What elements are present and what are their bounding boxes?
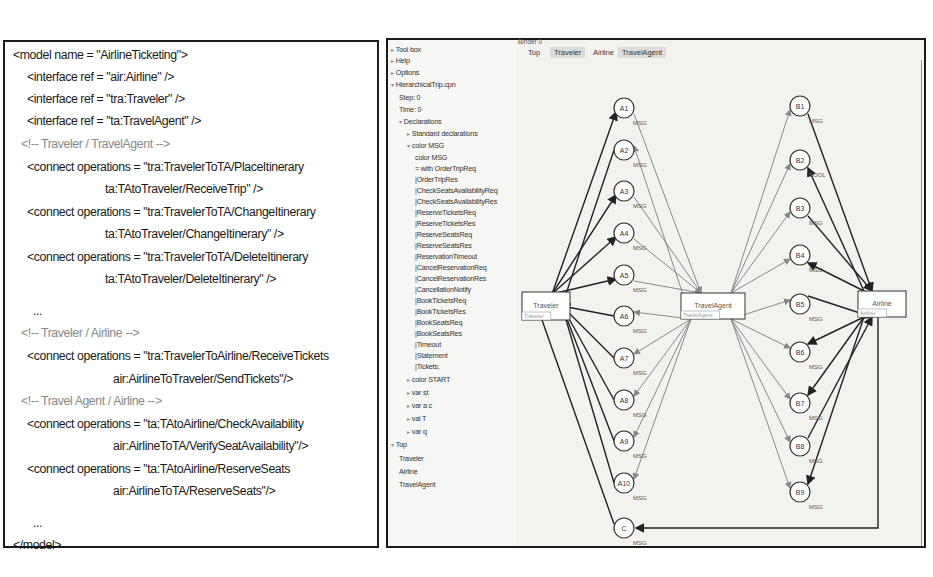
transition-traveler[interactable]: TravelerTraveler [522, 292, 570, 320]
index-item-label: |ReserveTicketsReq [415, 208, 476, 217]
index-item[interactable]: |Timeout [415, 340, 441, 349]
index-item[interactable]: |CheckSeatsAvailabilityReq [415, 186, 497, 195]
index-item[interactable]: |CancellationNotify [415, 285, 471, 294]
index-item[interactable]: ▸Options [391, 68, 419, 77]
collapsed-triangle-icon[interactable]: ▸ [407, 429, 410, 435]
expanded-triangle-icon[interactable]: ▾ [391, 82, 394, 88]
expanded-triangle-icon[interactable]: ▾ [391, 442, 394, 448]
place-b2[interactable]: B2BOOL [790, 150, 826, 178]
index-item[interactable]: |ReserveTicketsReq [415, 208, 476, 217]
svg-text:B1: B1 [796, 103, 805, 110]
transition-airline[interactable]: AirlineAirline [858, 291, 906, 317]
place-a1[interactable]: A1MSG [614, 98, 647, 126]
index-item[interactable]: ▾color MSG [407, 141, 444, 150]
index-item[interactable]: |Statement [415, 351, 448, 360]
collapsed-triangle-icon[interactable]: ▸ [391, 47, 394, 53]
index-item-label: Help [396, 56, 410, 65]
index-item[interactable]: |ReservationTimeout [415, 252, 477, 261]
tab-top[interactable]: Top [524, 47, 544, 58]
index-item[interactable]: |BookTicketsReq [415, 296, 466, 305]
tab-airline[interactable]: Airline [589, 47, 618, 58]
place-a9[interactable]: A9MSG [614, 431, 647, 459]
index-item[interactable]: ▸Help [391, 56, 410, 65]
index-item[interactable]: ▸var st [407, 388, 428, 397]
index-item[interactable]: ▾Declarations [399, 117, 441, 126]
index-item[interactable]: ▾Top [391, 440, 407, 449]
place-b7[interactable]: B7MSG [790, 393, 823, 421]
index-item[interactable]: |Tickets; [415, 362, 440, 371]
index-item-label: |ReserveSeatsReq [415, 230, 472, 239]
svg-text:B9: B9 [796, 489, 805, 496]
index-item[interactable]: ▸color START [407, 375, 450, 384]
svg-text:MSG: MSG [633, 370, 647, 376]
index-item[interactable]: ▸var q [407, 427, 427, 436]
index-item[interactable]: = with OrderTripReq [415, 164, 476, 173]
index-item-label: |ReservationTimeout [415, 252, 477, 261]
index-item[interactable]: |CancelReservationReq [415, 263, 487, 272]
index-item-label: |BookTicketsReq [415, 296, 466, 305]
index-item[interactable]: ▸val T [407, 414, 426, 423]
index-item[interactable]: ▸var a c [407, 401, 432, 410]
index-item[interactable]: ▸Tool box [391, 45, 421, 54]
index-item[interactable]: |BookSeatsRes [415, 329, 462, 338]
collapsed-triangle-icon[interactable]: ▸ [407, 390, 410, 396]
svg-text:BOOL: BOOL [809, 172, 826, 178]
xml-code-line: <connect operations = "ta:TAtoAirline/Re… [27, 462, 290, 476]
expanded-triangle-icon[interactable]: ▾ [399, 119, 402, 125]
place-a5[interactable]: A5MSG [614, 265, 647, 293]
place-a4[interactable]: A4MSG [614, 223, 647, 251]
index-item[interactable]: Step: 0 [399, 93, 420, 102]
index-item[interactable]: |BookTicketsRes [415, 307, 466, 316]
index-item[interactable]: Airline [399, 467, 418, 476]
index-item[interactable]: Time: 0 [399, 105, 421, 114]
index-item[interactable]: ▸Standard declarations [407, 129, 478, 138]
index-item-label: TravelAgent [399, 480, 435, 489]
place-b3[interactable]: B3MSG [790, 198, 823, 226]
index-item[interactable]: TravelAgent [399, 480, 435, 489]
place-b1[interactable]: B1MSG [790, 96, 823, 124]
binder: Binder 0 Top Traveler Airline TravelAgen… [516, 40, 924, 546]
place-a6[interactable]: A6MSG [614, 306, 647, 334]
place-b9[interactable]: B9MSG [790, 482, 823, 510]
transition-travelagent[interactable]: TravelAgentTravelAgent [681, 293, 745, 319]
index-item[interactable]: ▾HierarchicalTrip.cpn [391, 80, 455, 89]
index-item[interactable]: |BookSeatsReq [415, 318, 462, 327]
collapsed-triangle-icon[interactable]: ▸ [407, 377, 410, 383]
index-item-label: |ReserveTicketsRes [415, 219, 475, 228]
tab-travelagent[interactable]: TravelAgent [618, 47, 666, 58]
place-b8[interactable]: B8MSG [790, 436, 823, 464]
place-c[interactable]: CMSG [614, 518, 647, 546]
place-a7[interactable]: A7MSG [614, 348, 647, 376]
collapsed-triangle-icon[interactable]: ▸ [407, 131, 410, 137]
cpn-tools-window: ▸Tool box▸Help▸Options▾HierarchicalTrip.… [386, 38, 926, 548]
xml-code-line: <interface ref = "tra:Traveler" /> [27, 92, 185, 106]
collapsed-triangle-icon[interactable]: ▸ [391, 58, 394, 64]
index-item[interactable]: |CancelReservationRes [415, 274, 486, 283]
svg-text:MSG: MSG [809, 220, 823, 226]
index-item-label: |CheckSeatsAvailabilityReq [415, 186, 497, 195]
index-item-label: var st [412, 388, 428, 397]
collapsed-triangle-icon[interactable]: ▸ [391, 70, 394, 76]
tab-traveler[interactable]: Traveler [550, 47, 585, 58]
place-a8[interactable]: A8MSG [614, 390, 647, 418]
index-item[interactable]: |CheckSeatsAvailabilityRes [415, 197, 497, 206]
index-item-label: color MSG [412, 141, 444, 150]
place-a2[interactable]: A2MSG [614, 140, 647, 168]
collapsed-triangle-icon[interactable]: ▸ [407, 403, 410, 409]
place-b5[interactable]: B5MSG [790, 294, 823, 322]
place-a10[interactable]: A10MSG [614, 473, 647, 501]
place-a3[interactable]: A3MSG [614, 181, 647, 209]
index-item[interactable]: |ReserveTicketsRes [415, 219, 475, 228]
xml-code-line: ta:TAtoTraveler/ChangeItinerary" /> [105, 227, 284, 241]
place-b4[interactable]: B4MSG [790, 245, 823, 273]
collapsed-triangle-icon[interactable]: ▸ [407, 416, 410, 422]
index-item[interactable]: |OrderTripRes [415, 175, 458, 184]
index-item[interactable]: |ReserveSeatsReq [415, 230, 472, 239]
index-item[interactable]: Traveler [399, 454, 424, 463]
index-item-label: val T [412, 414, 426, 423]
place-b6[interactable]: B6MSG [790, 342, 823, 370]
index-item[interactable]: |ReserveSeatsRes [415, 241, 472, 250]
expanded-triangle-icon[interactable]: ▾ [407, 143, 410, 149]
index-item[interactable]: color MSG [415, 153, 447, 162]
petri-net-diagram[interactable]: TravelerTravelerTravelAgentTravelAgentAi… [516, 60, 921, 546]
